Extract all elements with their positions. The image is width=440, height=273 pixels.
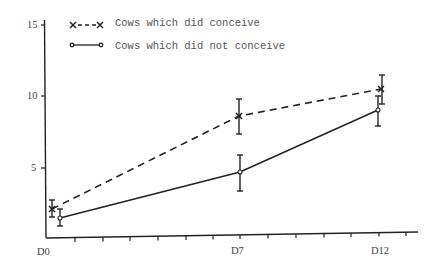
x-tick-label-d12: D12 [371, 245, 389, 256]
legend-label-conceive: Cows which did conceive [115, 17, 260, 29]
line-chart: 15 10 5 D0 D7 D12 [0, 0, 440, 273]
y-tick-label-5: 5 [31, 162, 36, 173]
legend-label-not-conceive: Cows which did not conceive [115, 40, 285, 52]
x-tick-label-d7: D7 [231, 245, 244, 256]
series-not-conceive [57, 96, 381, 226]
x-markers [49, 86, 384, 212]
x-tick-label-d0: D0 [37, 246, 50, 257]
series-conceive [49, 75, 385, 217]
y-tick-label-15: 15 [27, 19, 38, 30]
legend-marker-not-conceive [70, 43, 103, 47]
y-axis [45, 20, 47, 238]
legend-marker-conceive [70, 22, 103, 28]
legend: Cows which did conceive Cows which did n… [70, 17, 285, 52]
y-tick-label-10: 10 [27, 90, 38, 101]
x-axis [46, 232, 418, 238]
circle-markers [58, 108, 380, 220]
